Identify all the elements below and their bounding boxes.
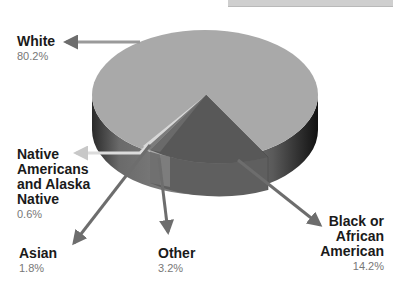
label-native-line4: Native [17, 192, 90, 207]
label-black: Black or African American 14.2% [300, 214, 384, 273]
label-other-name: Other [158, 245, 195, 261]
label-native-pct: 0.6% [17, 207, 90, 221]
label-white-pct: 80.2% [17, 49, 55, 63]
label-black-line3: American [300, 244, 384, 259]
label-asian-name: Asian [19, 245, 57, 261]
label-other-pct: 3.2% [158, 261, 195, 275]
label-black-line1: Black or [300, 214, 384, 229]
label-native-line2: Americans [17, 162, 90, 177]
label-black-line2: African [300, 229, 384, 244]
label-native: Native Americans and Alaska Native 0.6% [17, 147, 90, 221]
label-other: Other 3.2% [158, 246, 195, 275]
label-white-name: White [17, 33, 55, 49]
label-native-line3: and Alaska [17, 177, 90, 192]
label-black-pct: 14.2% [300, 259, 384, 273]
label-asian-pct: 1.8% [19, 261, 57, 275]
label-white: White 80.2% [17, 34, 55, 63]
label-asian: Asian 1.8% [19, 246, 57, 275]
label-native-line1: Native [17, 147, 90, 162]
